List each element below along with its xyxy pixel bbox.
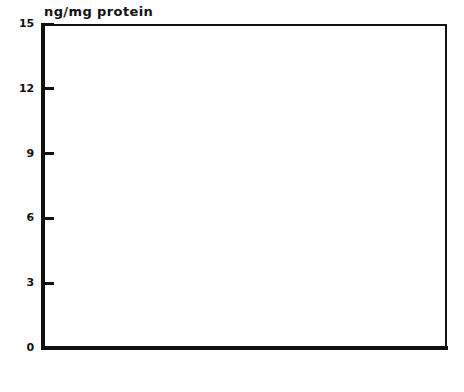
y-axis-tick	[45, 152, 54, 155]
y-axis-tick	[45, 217, 54, 220]
y-axis-tick-label: 9	[8, 147, 34, 160]
y-axis-tick-label: 0	[8, 341, 34, 354]
y-axis-tick	[45, 23, 54, 26]
y-axis-spine	[41, 23, 45, 350]
y-axis-tick-label: 3	[8, 276, 34, 289]
y-axis-tick-label: 6	[8, 211, 34, 224]
y-axis-tick	[45, 282, 54, 285]
plot-frame	[42, 24, 447, 348]
y-axis-tick	[45, 347, 54, 350]
bar-chart-figure: ng/mg protein 15129630	[0, 0, 464, 392]
y-axis-title: ng/mg protein	[44, 4, 153, 19]
y-axis-tick	[45, 87, 54, 90]
x-axis-spine	[41, 346, 448, 350]
y-axis-tick-label: 15	[8, 17, 34, 30]
y-axis-tick-label: 12	[8, 82, 34, 95]
